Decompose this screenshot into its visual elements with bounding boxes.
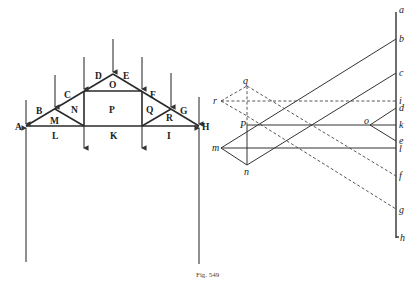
dashed-r-q [221,86,247,101]
line-o-d [370,108,396,125]
dashed-r-p [221,101,247,116]
label-m: m [212,142,219,153]
label-P: P [109,105,115,115]
label-D: D [95,71,102,81]
label-G: G [180,106,188,116]
label-r: r [213,95,217,106]
ray-c-n [247,73,396,165]
loads [26,39,199,264]
line-o-e [370,125,396,141]
force-diagram: a b c i d k e l f g h q r P m n o [212,4,405,243]
label-E: E [123,71,129,81]
label-k: k [399,119,404,130]
label-Q: Q [146,105,153,115]
label-L: L [52,131,58,141]
label-f: f [399,170,403,181]
label-R: R [166,113,173,123]
label-F: F [150,90,156,100]
label-c: c [399,67,404,78]
label-l: l [399,143,402,154]
label-d: d [399,102,405,113]
label-b: b [399,33,404,44]
label-p: P [239,119,246,130]
diagram-canvas: A B C D E F G H I K L M N O P Q R [0,0,418,289]
label-q: q [243,75,248,86]
dashed-q-f [247,86,396,176]
label-N: N [71,105,78,115]
label-I: I [167,131,171,141]
label-A: A [15,122,22,132]
figure-caption: Fig. 549 [196,271,220,279]
label-o: o [364,115,369,126]
label-O: O [109,80,116,90]
label-a: a [399,4,404,15]
left-brace [55,109,84,126]
line-m-n [221,148,247,165]
label-g: g [399,204,404,215]
label-n: n [244,166,249,177]
truss-labels: A B C D E F G H I K L M N O P Q R [15,71,210,141]
label-h: h [400,232,405,243]
label-K: K [110,131,118,141]
label-C: C [64,90,71,100]
label-B: B [36,106,43,116]
label-H: H [202,122,210,132]
label-M: M [50,116,59,126]
